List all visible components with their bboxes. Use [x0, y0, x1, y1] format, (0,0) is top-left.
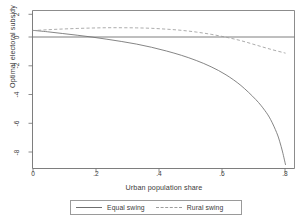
chart-figure: 2 0 -2 -4 -6 -8 0 .2 .4 .6 .8 Optimal el…: [0, 0, 307, 220]
legend-label-equal-swing: Equal swing: [107, 204, 145, 211]
x-tick-label-0-2: .2: [85, 170, 107, 177]
legend-label-rural-swing: Rural swing: [187, 204, 224, 211]
y-axis-title: Optimal electoral subsidy: [8, 0, 17, 117]
x-tick-label-0-8: .8: [274, 170, 296, 177]
y-tick-label-minus8: -8: [13, 141, 20, 163]
x-axis-title: Urban population share: [33, 183, 295, 192]
y-tick-marks: [29, 14, 33, 152]
legend-swatch-solid-icon: [76, 207, 102, 208]
legend: Equal swing Rural swing: [70, 200, 242, 215]
x-tick-label-0-6: .6: [211, 170, 233, 177]
legend-swatch-dashed-icon: [156, 207, 182, 208]
series-line-equal-swing: [33, 30, 286, 165]
legend-entry-equal-swing[interactable]: Equal swing: [76, 204, 145, 211]
legend-entry-rural-swing[interactable]: Rural swing: [156, 204, 224, 211]
x-tick-label-0: 0: [22, 170, 44, 177]
x-tick-label-0-4: .4: [148, 170, 170, 177]
